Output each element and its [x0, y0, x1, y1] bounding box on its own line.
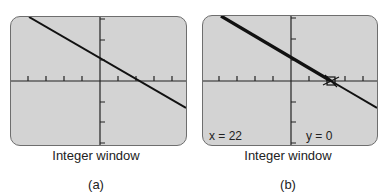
x-readout: x = 22 [209, 129, 242, 143]
y-readout: y = 0 [306, 129, 332, 143]
panel-b: x = 22 y = 0 Integer window (b) [192, 0, 384, 194]
graph-line-b-traced [221, 16, 331, 81]
calculator-screen-a [10, 16, 187, 146]
graph-b [203, 16, 377, 145]
panel-a: Integer window (a) [0, 0, 192, 194]
panel-label-a: (a) [0, 177, 192, 192]
graph-line-a [29, 17, 186, 108]
caption-b: Integer window [192, 148, 384, 163]
calculator-screen-b: x = 22 y = 0 [202, 15, 378, 146]
caption-a: Integer window [0, 148, 192, 163]
graph-a [11, 17, 186, 145]
panel-label-b: (b) [192, 177, 384, 192]
graph-line-b [331, 81, 377, 108]
